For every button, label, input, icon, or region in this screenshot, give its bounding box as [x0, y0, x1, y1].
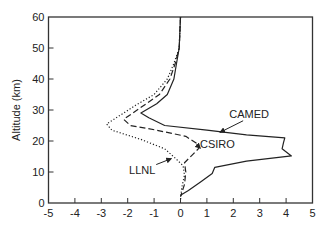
- y-tick-label: 40: [32, 73, 44, 85]
- y-tick-label: 10: [32, 166, 44, 178]
- plot-axes: -5-4-3-2-10123450102030405060: [32, 11, 315, 219]
- y-tick-label: 30: [32, 104, 44, 116]
- x-tick-label: 0: [177, 207, 183, 219]
- x-tick-label: 5: [309, 207, 315, 219]
- series-camed-line: [141, 17, 292, 195]
- y-tick-label: 20: [32, 135, 44, 147]
- y-tick-label: 60: [32, 11, 44, 23]
- x-tick-label: -2: [123, 207, 133, 219]
- annotation-llnl: LLNL: [129, 164, 155, 176]
- altitude-profile-chart: -5-4-3-2-10123450102030405060 CAMEDCSIRO…: [0, 0, 328, 229]
- y-axis-title: Altitude (km): [10, 79, 22, 141]
- x-tick-label: 3: [257, 207, 263, 219]
- annotation-arrow-icon: [220, 121, 243, 133]
- x-tick-label: -5: [44, 207, 54, 219]
- x-tick-label: 4: [283, 207, 289, 219]
- annotation-csiro: CSIRO: [200, 138, 235, 150]
- x-tick-label: -4: [70, 207, 80, 219]
- annotation-camed: CAMED: [229, 108, 269, 120]
- annotation-arrow-icon: [156, 159, 171, 165]
- x-tick-label: 2: [230, 207, 236, 219]
- y-tick-label: 50: [32, 42, 44, 54]
- x-tick-label: -3: [96, 207, 106, 219]
- x-tick-label: 1: [204, 207, 210, 219]
- x-tick-label: -1: [149, 207, 159, 219]
- y-tick-label: 0: [38, 197, 44, 209]
- plot-frame: [49, 17, 313, 203]
